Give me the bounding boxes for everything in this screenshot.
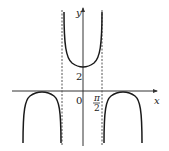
y-tick-label: 2: [76, 71, 82, 82]
secant-graph: y x 2 0 π 2: [0, 0, 169, 151]
x-axis-arrow-icon: [153, 89, 158, 93]
y-axis-label: y: [75, 7, 82, 18]
origin-label: 0: [76, 95, 82, 106]
curve-left-branch: [23, 92, 61, 143]
x-axis-label: x: [154, 95, 160, 106]
x-tick-pi-numerator: π: [93, 93, 101, 103]
x-tick-pi-denominator: 2: [94, 103, 100, 113]
curve-right-branch: [104, 92, 142, 143]
